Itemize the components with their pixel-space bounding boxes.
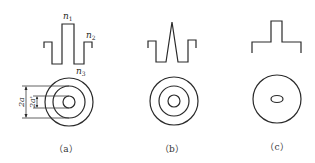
caption-b: （b） xyxy=(160,144,184,154)
panel-b-index-profile xyxy=(148,22,196,62)
arrow-up-icon xyxy=(25,86,28,90)
label-n2: n2 xyxy=(86,30,96,41)
panel-b-middle-circle xyxy=(159,86,189,116)
dim-label-2a-prime: 2a' xyxy=(28,96,37,109)
panel-c: （c） xyxy=(252,21,301,152)
panel-c-elliptical-core xyxy=(271,96,283,103)
panel-a-outer-circle xyxy=(45,78,93,126)
panel-c-outer-circle xyxy=(253,75,301,123)
fiber-refractive-index-figure: n1 n2 n3 2a 2a' （a） （b） （c） xyxy=(0,0,315,163)
caption-c: （c） xyxy=(265,142,288,152)
panel-c-index-profile xyxy=(252,21,301,53)
panel-b-outer-circle xyxy=(150,77,198,125)
panel-b-core-circle xyxy=(168,95,180,107)
label-n1: n1 xyxy=(63,11,73,22)
panel-b: （b） xyxy=(148,22,198,154)
panel-a-middle-circle xyxy=(53,86,85,118)
dim-label-2a: 2a xyxy=(17,97,26,108)
panel-a-core-circle xyxy=(63,96,75,108)
panel-a-index-profile xyxy=(44,24,92,64)
caption-a: （a） xyxy=(54,144,77,154)
panel-a: n1 n2 n3 2a 2a' （a） xyxy=(17,11,96,154)
arrow-down-icon xyxy=(25,114,28,118)
label-n3: n3 xyxy=(76,66,86,77)
